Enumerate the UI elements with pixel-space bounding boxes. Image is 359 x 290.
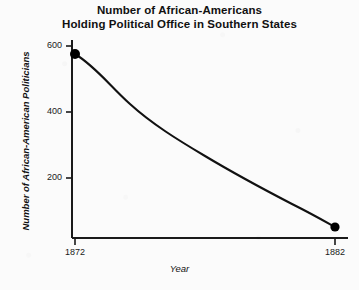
chart-figure: Number of African-Americans Holding Poli… xyxy=(0,0,359,290)
x-tick-label-1882: 1882 xyxy=(315,247,355,257)
x-tick-label-1872: 1872 xyxy=(55,247,95,257)
y-tick-label-600: 600 xyxy=(36,40,62,50)
data-point-1872 xyxy=(70,49,80,59)
y-tick-label-400: 400 xyxy=(36,106,62,116)
data-point-1882 xyxy=(330,222,339,231)
y-axis-label: Number of African-American Politicians xyxy=(20,61,31,231)
x-axis-label: Year xyxy=(0,263,359,274)
y-tick-label-200: 200 xyxy=(36,172,62,182)
data-line xyxy=(75,54,335,227)
